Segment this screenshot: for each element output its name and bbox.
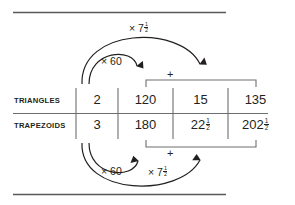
operand-whole: 7 [138,22,144,34]
cell-triangles-3: 135 [228,93,283,106]
ratio-table-diagram: TRIANGLES TRAPEZOIDS 2 120 15 135 3 180 … [0,0,295,205]
label-top-times-60: × 60 [101,56,122,67]
operand-whole: 60 [110,55,122,67]
multiply-sign-icon: × [101,55,107,67]
cell-trapezoids-3: 20212 [228,118,283,132]
cell-trapezoids-2-whole: 22 [191,117,205,132]
label-bottom-times-7-and-half: × 712 [148,166,167,178]
cell-trapezoids-3-whole: 202 [242,117,264,132]
row-label-trapezoids: TRAPEZOIDS [14,122,65,130]
row-label-triangles: TRIANGLES [14,97,60,105]
cell-triangles-1: 120 [118,93,173,106]
cell-triangles-0: 2 [76,93,118,106]
bottom-sum-plus-sign: + [167,148,173,159]
arc-bottom-times-7-and-half [82,143,200,186]
cell-trapezoids-3-fraction: 12 [264,118,269,132]
label-top-times-7-and-half: × 712 [129,22,148,34]
operand-whole: 60 [110,165,122,177]
multiply-sign-icon: × [148,166,154,178]
fraction-denominator: 2 [264,124,269,131]
operand-whole: 7 [157,166,163,178]
multiply-sign-icon: × [129,22,135,34]
operand-fraction: 12 [163,166,167,178]
top-sum-plus-sign: + [167,69,173,80]
label-bottom-times-60: × 60 [101,166,122,177]
cell-trapezoids-2-fraction: 12 [206,118,211,132]
operand-fraction: 12 [144,22,148,34]
fraction-denominator: 2 [206,124,211,131]
cell-triangles-2: 15 [173,93,228,106]
fraction-denominator: 2 [163,171,167,177]
bottom-sum-bracket [146,140,256,147]
cell-trapezoids-2: 2212 [173,118,228,132]
fraction-denominator: 2 [144,27,148,33]
top-sum-bracket [146,80,256,87]
cell-trapezoids-1: 180 [118,118,173,131]
cell-trapezoids-0: 3 [76,118,118,131]
multiply-sign-icon: × [101,165,107,177]
